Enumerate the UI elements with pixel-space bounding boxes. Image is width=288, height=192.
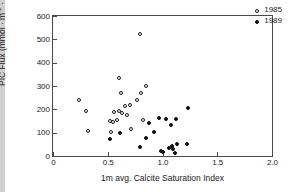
y-axis-tick-label: 100 bbox=[37, 129, 50, 137]
y-axis-tick-label: 600 bbox=[37, 13, 50, 21]
legend-item-label: 1985 bbox=[264, 5, 282, 16]
data-point-1985 bbox=[139, 91, 143, 95]
x-axis-tick-label: 1.0 bbox=[157, 159, 168, 167]
y-axis-tick-label: 200 bbox=[37, 106, 50, 114]
data-point-1985 bbox=[86, 129, 90, 133]
legend: 19851989 bbox=[255, 5, 282, 27]
data-point-1989 bbox=[174, 117, 178, 121]
data-point-1989 bbox=[173, 151, 177, 155]
y-axis-tick: 100 bbox=[53, 133, 57, 134]
x-axis-tick: 2.0 bbox=[272, 152, 273, 156]
data-point-1985 bbox=[115, 118, 119, 122]
data-point-1985 bbox=[125, 113, 129, 117]
y-axis-tick-label: 300 bbox=[37, 83, 50, 91]
data-point-1985 bbox=[138, 32, 142, 36]
data-point-1985 bbox=[141, 118, 145, 122]
data-point-1985 bbox=[144, 84, 148, 88]
data-point-1985 bbox=[119, 91, 123, 95]
y-axis-tick-label: 500 bbox=[37, 36, 50, 44]
y-axis-tick: 400 bbox=[53, 63, 57, 64]
data-point-1989 bbox=[108, 137, 112, 141]
data-point-1989 bbox=[138, 145, 142, 149]
legend-marker-icon bbox=[255, 9, 259, 13]
legend-item-1985: 1985 bbox=[255, 5, 282, 16]
data-point-1985 bbox=[135, 98, 139, 102]
data-point-1989 bbox=[169, 123, 173, 127]
y-axis-tick: 300 bbox=[53, 86, 57, 87]
y-axis-tick: 0 bbox=[53, 156, 57, 157]
data-point-1985 bbox=[117, 76, 121, 80]
data-point-1989 bbox=[185, 142, 189, 146]
data-point-1989 bbox=[175, 142, 179, 146]
data-point-1989 bbox=[164, 117, 168, 121]
x-axis-tick: 0.5 bbox=[108, 152, 109, 156]
y-axis-tick-label: 0 bbox=[46, 153, 50, 161]
plot-area: 010020030040050060000.51.01.52.0 bbox=[52, 15, 273, 157]
data-point-1985 bbox=[77, 98, 81, 102]
data-point-1985 bbox=[128, 103, 132, 107]
x-axis-tick-label: 1.5 bbox=[212, 159, 223, 167]
data-point-1989 bbox=[152, 130, 156, 134]
data-point-1989 bbox=[186, 106, 190, 110]
y-axis-tick-label: 400 bbox=[37, 59, 50, 67]
y-axis-tick: 600 bbox=[53, 16, 57, 17]
data-point-1989 bbox=[144, 136, 148, 140]
legend-marker-icon bbox=[255, 20, 259, 24]
data-point-1989 bbox=[161, 150, 165, 154]
data-point-1989 bbox=[157, 116, 161, 120]
data-point-1989 bbox=[147, 121, 151, 125]
data-point-1985 bbox=[120, 111, 124, 115]
data-point-1985 bbox=[129, 127, 133, 131]
legend-item-label: 1989 bbox=[264, 16, 282, 27]
x-axis-tick: 1.5 bbox=[217, 152, 218, 156]
x-axis-label: 1m avg. Calcite Saturation Index bbox=[52, 174, 273, 183]
x-axis-tick-label: 0 bbox=[51, 159, 55, 167]
y-axis-tick: 200 bbox=[53, 109, 57, 110]
x-axis-tick-label: 0.5 bbox=[103, 159, 114, 167]
x-axis-tick: 0 bbox=[53, 152, 54, 156]
y-axis-tick: 500 bbox=[53, 39, 57, 40]
y-axis-label: PIC Flux (mmol · m-2 · d-1) bbox=[0, 0, 6, 86]
x-axis-tick-label: 2.0 bbox=[267, 159, 278, 167]
legend-item-1989: 1989 bbox=[255, 16, 282, 27]
scatter-plot-figure: 010020030040050060000.51.01.52.0 PIC Flu… bbox=[0, 0, 288, 192]
data-point-1985 bbox=[109, 130, 113, 134]
data-point-1989 bbox=[118, 131, 122, 135]
data-point-1985 bbox=[84, 109, 88, 113]
